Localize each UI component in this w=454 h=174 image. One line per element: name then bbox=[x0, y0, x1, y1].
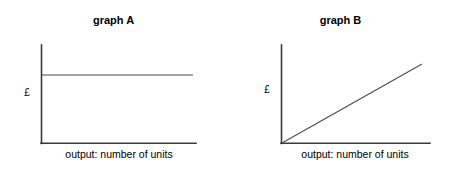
graph-a-x-axis-label: output: number of units bbox=[24, 148, 214, 161]
graphs-figure: graph A £ output: number of units graph … bbox=[0, 0, 454, 174]
graph-b-panel: graph B £ output: number of units bbox=[227, 0, 454, 174]
graph-a-y-axis-label: £ bbox=[18, 87, 36, 98]
graph-b-data-line bbox=[282, 64, 422, 143]
graph-a-panel: graph A £ output: number of units bbox=[0, 0, 227, 174]
graph-b-x-axis-label: output: number of units bbox=[257, 148, 453, 161]
graph-b-y-axis-label: £ bbox=[258, 84, 276, 95]
